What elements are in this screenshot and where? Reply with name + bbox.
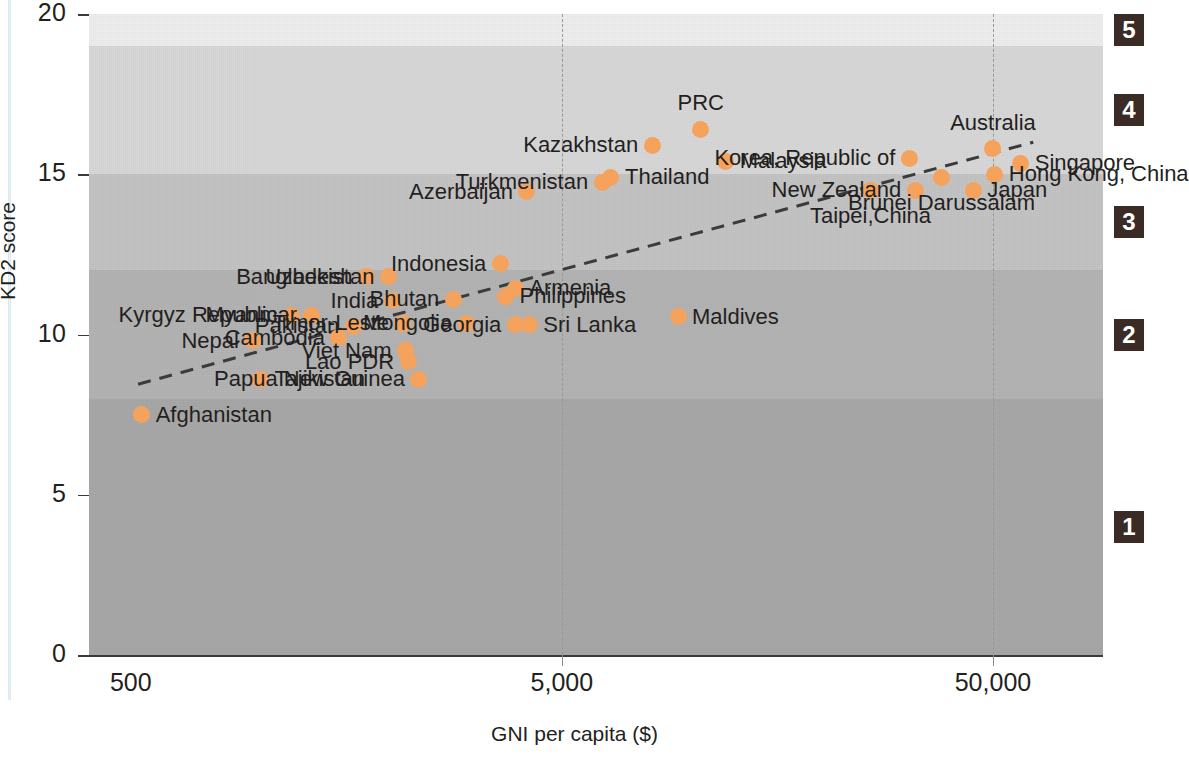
level-badge-5: 5 (1114, 14, 1144, 46)
x-tick-label: 500 (110, 668, 152, 697)
level-badge-4: 4 (1114, 94, 1144, 126)
y-tick-label: 10 (38, 319, 66, 348)
x-axis-title: GNI per capita ($) (0, 722, 1149, 746)
data-point (901, 150, 918, 167)
y-tick-mark (78, 14, 89, 16)
point-label: Korea, Republic of (714, 147, 895, 169)
level-badge-3: 3 (1114, 206, 1144, 238)
point-label: Indonesia (391, 253, 486, 275)
page-margin-rule (8, 0, 11, 700)
y-tick-mark (78, 655, 89, 657)
point-label: Maldives (692, 306, 779, 328)
data-point (445, 291, 462, 308)
y-tick-mark (78, 335, 89, 337)
point-label: PRC (678, 92, 724, 114)
point-label: Georgia (423, 314, 501, 336)
y-tick-label: 20 (38, 0, 66, 27)
y-tick-label: 15 (38, 158, 66, 187)
point-label: Turkmenistan (456, 171, 588, 193)
x-tick-mark (993, 655, 995, 666)
point-label: Singapore (1035, 152, 1135, 174)
data-point (670, 308, 687, 325)
y-tick-mark (78, 174, 89, 176)
point-label: Afghanistan (156, 404, 272, 426)
point-label: Australia (950, 112, 1036, 134)
data-point (644, 137, 661, 154)
level-badge-1: 1 (1114, 511, 1144, 543)
point-label: Uzbekistan (266, 266, 375, 288)
y-tick-mark (78, 495, 89, 497)
y-tick-label: 5 (52, 479, 66, 508)
x-tick-label: 5,000 (531, 668, 594, 697)
y-tick-label: 0 (52, 639, 66, 668)
point-label: Sri Lanka (543, 314, 636, 336)
point-label: Bhutan (370, 288, 440, 310)
x-axis-line (78, 655, 1103, 657)
point-label: Kazakhstan (523, 134, 638, 156)
chart-plot-area: AfghanistanTajikistanNepalKyrgyz Republi… (89, 14, 1103, 655)
y-axis-title: KD2 score (0, 202, 20, 300)
data-point (933, 169, 950, 186)
point-label: Papua New Guinea (214, 368, 405, 390)
x-tick-label: 50,000 (955, 668, 1031, 697)
x-tick-mark (562, 655, 564, 666)
data-point (521, 316, 538, 333)
point-label: Armenia (529, 277, 611, 299)
point-label: Thailand (625, 166, 709, 188)
level-badge-2: 2 (1114, 319, 1144, 351)
